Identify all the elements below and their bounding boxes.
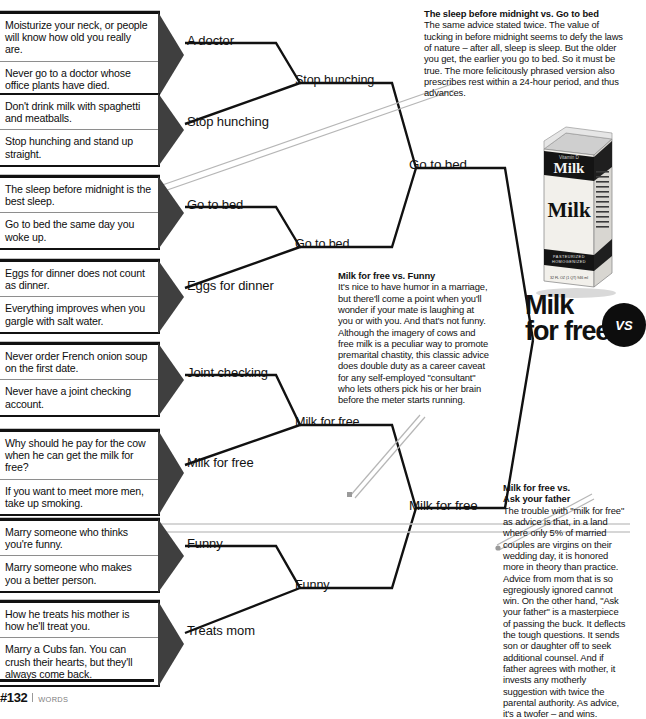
seed-card-stop-hunching[interactable]: Don't drink milk with spaghetti and meat… [0,93,160,167]
round2-label-milk-for-free[interactable]: Milk for free [295,416,359,429]
footer-rule [0,679,154,682]
seed-card-go-to-bed[interactable]: The sleep before midnight is the best sl… [0,176,160,250]
note-milk-vs-father: Milk for free vs. Ask your father The tr… [503,482,627,719]
round2-label-funny[interactable]: Funny [295,579,330,592]
vs-badge: VS [602,303,646,347]
carton-front-text: Milk [547,198,590,222]
footer: #132 WORDS [0,679,154,705]
carton-volume-text: 32 FL OZ (1 QT) 946 ml [550,276,588,280]
milk-carton-image: Milk Vitamin D Milk PASTEURIZED HOMOGENI… [526,115,618,300]
seed-card-treats-mom[interactable]: How he treats his mother is how he'll tr… [0,601,160,687]
winner-label-stop-hunching[interactable]: Stop hunching [187,115,269,128]
seed-entry[interactable]: How he treats his mother is how he'll tr… [0,603,158,637]
champion-title-line2: for free [525,318,609,344]
seed-entry[interactable]: Never go to a doctor whose office plants… [0,61,158,96]
footer-divider [32,693,33,702]
seed-entry[interactable]: Never have a joint checking account. [0,379,158,414]
winner-label-funny[interactable]: Funny [187,537,223,550]
seed-entry[interactable]: Marry a Cubs fan. You can crush their he… [0,637,158,685]
seed-card-funny[interactable]: Marry someone who thinks you're funny. M… [0,519,160,593]
carton-bottom-line1: PASTEURIZED [553,255,585,259]
carton-brand-text: Milk [554,160,585,176]
round3-label-milk-for-free[interactable]: Milk for free [409,499,478,512]
seed-entry[interactable]: Marry someone who thinks you're funny. [0,521,158,555]
seed-card-eggs-for-dinner[interactable]: Eggs for dinner does not count as dinner… [0,260,160,334]
seed-entry[interactable]: Eggs for dinner does not count as dinner… [0,262,158,296]
seed-entry[interactable]: Go to bed the same day you woke up. [0,212,158,247]
winner-label-treats-mom[interactable]: Treats mom [187,624,255,637]
seed-entry[interactable]: Moisturize your neck, or people will kno… [0,14,158,61]
note-sleep-vs-bed: The sleep before midnight vs. Go to bed … [424,8,626,98]
note-heading-line1: Milk for free vs. [503,482,627,493]
footer-number: #132 [0,690,27,705]
round2-label-stop-hunching[interactable]: Stop hunching [295,74,374,87]
note-body: The trouble with "milk for free" as advi… [503,505,627,719]
carton-bottom-line2: HOMOGENIZED [552,260,586,264]
champion-title-line1: Milk [525,292,609,318]
seed-card-milk-for-free[interactable]: Why should he pay for the cow when he ca… [0,430,160,516]
seed-entry[interactable]: Don't drink milk with spaghetti and meat… [0,95,158,129]
seed-entry[interactable]: If you want to meet more men, take up sm… [0,479,158,514]
round2-label-go-to-bed[interactable]: Go to bed [295,238,349,251]
winner-label-eggs-for-dinner[interactable]: Eggs for dinner [187,279,274,292]
seed-entry[interactable]: Stop hunching and stand up straight. [0,129,158,164]
note-body: The same advice stated twice. The value … [424,19,626,98]
winner-label-joint-checking[interactable]: Joint checking [187,366,268,379]
seed-entry[interactable]: Never order French onion soup on the fir… [0,345,158,379]
seed-card-a-doctor[interactable]: Moisturize your neck, or people will kno… [0,12,160,98]
seed-entry[interactable]: Why should he pay for the cow when he ca… [0,432,158,479]
winner-label-go-to-bed[interactable]: Go to bed [187,198,243,211]
note-heading: Milk for free vs. Funny [338,270,490,281]
round3-label-go-to-bed[interactable]: Go to bed [409,158,467,171]
seed-entry[interactable]: Everything improves when you gargle with… [0,296,158,331]
note-heading-line2: Ask your father [503,493,627,504]
winner-label-a-doctor[interactable]: A doctor [187,34,234,47]
note-body: It's nice to have humor in a marriage, b… [338,281,490,405]
footer-category: WORDS [38,695,68,704]
seed-entry[interactable]: The sleep before midnight is the best sl… [0,178,158,212]
champion-title: Milk for free [525,292,609,344]
winner-label-milk-for-free[interactable]: Milk for free [187,456,254,469]
note-milk-vs-funny: Milk for free vs. Funny It's nice to hav… [338,270,490,406]
seed-card-joint-checking[interactable]: Never order French onion soup on the fir… [0,343,160,417]
seed-entry[interactable]: Marry someone who makes you a better per… [0,555,158,590]
carton-topline-text: Vitamin D [559,155,580,160]
note-heading: The sleep before midnight vs. Go to bed [424,8,626,19]
